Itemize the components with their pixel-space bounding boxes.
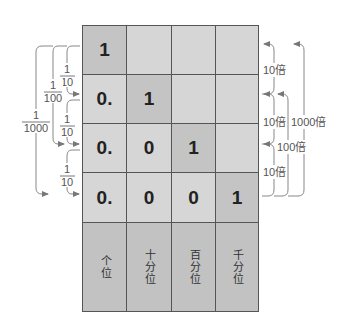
label-times10-2: 10倍 <box>263 115 286 128</box>
fraction-tenth-2-num: 1 <box>64 113 70 125</box>
fraction-tenth-3-den: 10 <box>61 176 73 188</box>
fraction-tenth-3-num: 1 <box>64 163 70 175</box>
label-times10-3: 10倍 <box>263 165 286 178</box>
left-fraction-labels: 1 10 1 10 1 10 1 100 1 1000 <box>21 63 75 188</box>
fraction-hundredth-den: 100 <box>44 92 62 104</box>
label-times1000: 1000倍 <box>291 115 326 128</box>
fraction-hundredth-num: 1 <box>50 79 56 91</box>
fraction-tenth-2-den: 10 <box>61 126 73 138</box>
label-times10-1: 10倍 <box>263 63 286 76</box>
label-times100: 100倍 <box>277 140 306 153</box>
right-multiplier-labels: 10倍 10倍 10倍 100倍 1000倍 <box>262 63 332 179</box>
fraction-thousandth-num: 1 <box>33 109 39 121</box>
decimal-place-value-diagram: 1 0. 1 0. 0 1 0. 0 0 1 个位 十分位 百分位 千分位 <box>0 0 351 331</box>
annotation-layer: 1 10 1 10 1 10 1 100 1 1000 10倍 10倍 <box>0 0 351 331</box>
fraction-tenth-1-num: 1 <box>64 63 70 75</box>
fraction-thousandth-den: 1000 <box>24 122 48 134</box>
